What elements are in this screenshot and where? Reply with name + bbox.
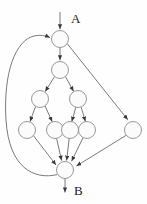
entry-label: A [71,11,81,26]
graph-node-n5[interactable] [19,122,36,139]
edge-n8-to-n10 [72,137,84,161]
exit-label: B [74,183,83,198]
edge-n4-to-n8 [81,107,85,121]
graph-node-n3[interactable] [32,91,49,108]
edge-n10-to-n1-backedge [6,35,58,175]
graph-node-n6[interactable] [47,122,64,139]
graph-node-n8[interactable] [79,122,96,139]
graph-node-n10[interactable] [57,162,74,179]
graph-node-n1[interactable] [52,31,69,48]
edge-n7-to-n10 [67,138,70,160]
edge-n4-to-n7 [72,107,76,121]
edge-n5-to-n10 [33,136,56,165]
edge-n2-to-n4 [66,77,74,92]
graph-figure: A B [0,0,147,204]
edge-n2-to-n3 [45,77,54,92]
edge-n6-to-n10 [57,138,62,160]
graph-node-n2[interactable] [52,62,69,79]
edge-n1-to-n9 [67,44,128,120]
graph-canvas: A B [0,0,147,204]
graph-node-n7[interactable] [62,122,79,139]
edge-n9-to-n10 [76,135,126,166]
edge-n3-to-n6 [45,106,52,122]
graph-node-n9[interactable] [125,122,142,139]
graph-node-n4[interactable] [70,91,87,108]
edge-n3-to-n5 [30,106,36,121]
